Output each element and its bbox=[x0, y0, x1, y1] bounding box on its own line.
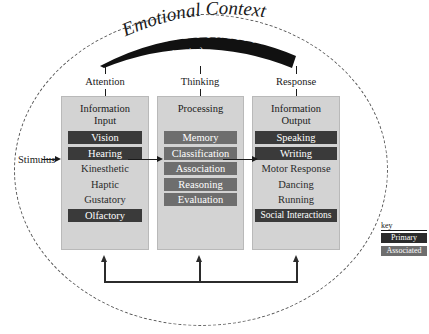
key-entry-associated: Associated bbox=[381, 246, 427, 256]
panel-item-list: Memory Classification Association Reason… bbox=[158, 131, 243, 206]
panel-title: Information Input bbox=[62, 97, 148, 127]
item-kinesthetic[interactable]: Kinesthetic bbox=[68, 162, 142, 175]
item-haptic[interactable]: Haptic bbox=[68, 178, 142, 191]
channel-tick-icon bbox=[105, 66, 106, 74]
arrow-up-icon-center bbox=[196, 255, 202, 262]
item-evaluation[interactable]: Evaluation bbox=[164, 193, 237, 206]
executive-function-banner: EXECUTIVE FUNCTION (choosing) bbox=[98, 26, 298, 68]
panel-information-input: Information Input Vision Hearing Kinesth… bbox=[61, 96, 149, 250]
key-legend: key Primary Associated bbox=[381, 221, 427, 258]
item-vision[interactable]: Vision bbox=[68, 131, 142, 144]
item-memory[interactable]: Memory bbox=[164, 131, 237, 144]
item-dancing[interactable]: Dancing bbox=[255, 178, 337, 191]
item-association[interactable]: Association bbox=[164, 162, 237, 175]
arrow-input-to-processing bbox=[128, 156, 163, 163]
item-social-interactions[interactable]: Social Interactions bbox=[255, 209, 337, 222]
item-motor-response[interactable]: Motor Response bbox=[255, 162, 337, 175]
feedback-riser-right bbox=[296, 262, 298, 282]
arrow-processing-to-output bbox=[223, 156, 258, 163]
key-entry-primary: Primary bbox=[381, 233, 427, 243]
item-gustatory[interactable]: Gustatory bbox=[68, 193, 142, 206]
item-olfactory[interactable]: Olfactory bbox=[68, 209, 142, 222]
channel-response-label: Response bbox=[251, 76, 341, 88]
channel-thinking-label: Thinking bbox=[155, 76, 245, 88]
feedback-riser-center bbox=[199, 262, 201, 282]
panel-item-list: Vision Hearing Kinesthetic Haptic Gustat… bbox=[62, 131, 148, 222]
panel-item-list: Speaking Writing Motor Response Dancing … bbox=[253, 131, 339, 222]
channel-attention-label: Attention bbox=[60, 76, 150, 88]
item-running[interactable]: Running bbox=[255, 193, 337, 206]
feedback-bus-line bbox=[104, 281, 298, 283]
stimulus-arrow bbox=[42, 156, 61, 163]
channel-tick-icon bbox=[200, 66, 201, 74]
panel-title: Information Output bbox=[253, 97, 339, 127]
diagram-canvas: Emotional Context EXECUTIVE FUNCTION (ch… bbox=[0, 0, 429, 334]
arrow-up-icon-right bbox=[293, 255, 299, 262]
key-legend-title: key bbox=[381, 221, 427, 231]
item-reasoning[interactable]: Reasoning bbox=[164, 178, 237, 191]
item-writing[interactable]: Writing bbox=[255, 147, 337, 160]
item-speaking[interactable]: Speaking bbox=[255, 131, 337, 144]
arrow-up-icon-left bbox=[101, 255, 107, 262]
channel-tick-icon bbox=[296, 66, 297, 74]
panel-processing: Processing Memory Classification Associa… bbox=[157, 96, 244, 250]
panel-information-output: Information Output Speaking Writing Moto… bbox=[252, 96, 340, 250]
feedback-riser-left bbox=[104, 262, 106, 282]
panel-title: Processing bbox=[158, 97, 243, 115]
